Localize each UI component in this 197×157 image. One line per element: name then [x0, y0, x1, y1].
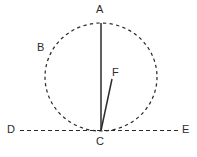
line-segment-cf — [101, 79, 112, 131]
point-label-f: F — [112, 67, 119, 78]
point-label-b: B — [37, 42, 44, 53]
geometry-diagram: A B F D E C — [0, 0, 197, 157]
diagram-canvas — [0, 0, 197, 157]
point-label-a: A — [96, 4, 103, 15]
point-label-d: D — [7, 124, 15, 135]
point-label-e: E — [182, 124, 189, 135]
point-label-c: C — [96, 136, 104, 147]
